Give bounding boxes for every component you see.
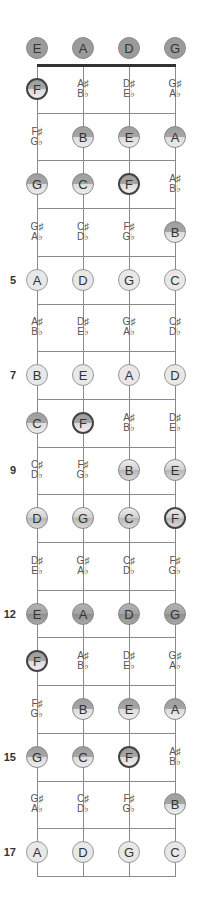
accidental-label: A♯B♭ bbox=[22, 317, 52, 337]
note-marker: G bbox=[72, 507, 94, 529]
note-marker: G bbox=[118, 269, 140, 291]
flat-name: B♭ bbox=[160, 184, 190, 194]
note-marker: D bbox=[72, 841, 94, 863]
accidental-label: G♯A♭ bbox=[22, 794, 52, 814]
note-marker: F bbox=[164, 507, 186, 529]
accidental-label: G♯A♭ bbox=[160, 651, 190, 671]
accidental-label: C♯D♭ bbox=[160, 317, 190, 337]
note-marker: C bbox=[164, 841, 186, 863]
flat-name: A♭ bbox=[22, 804, 52, 814]
flat-name: B♭ bbox=[160, 757, 190, 767]
flat-name: G♭ bbox=[22, 709, 52, 719]
fret-line bbox=[37, 733, 176, 734]
note-marker: C bbox=[72, 746, 94, 768]
note-marker: A bbox=[164, 698, 186, 720]
fret-number: 15 bbox=[2, 751, 16, 763]
accidental-label: C♯D♭ bbox=[114, 556, 144, 576]
open-string-note: G bbox=[164, 37, 186, 59]
note-marker: D bbox=[118, 603, 140, 625]
flat-name: D♭ bbox=[114, 566, 144, 576]
flat-name: E♭ bbox=[114, 89, 144, 99]
flat-name: B♭ bbox=[114, 423, 144, 433]
flat-name: B♭ bbox=[68, 89, 98, 99]
note-marker: A bbox=[26, 841, 48, 863]
accidental-label: F♯G♭ bbox=[68, 460, 98, 480]
fret-number: 9 bbox=[2, 464, 16, 476]
flat-name: D♭ bbox=[22, 470, 52, 480]
accidental-label: F♯G♭ bbox=[160, 556, 190, 576]
accidental-label: C♯D♭ bbox=[68, 222, 98, 242]
fret-line bbox=[37, 542, 176, 543]
note-marker: F bbox=[118, 173, 140, 195]
flat-name: G♭ bbox=[160, 566, 190, 576]
flat-name: A♭ bbox=[22, 232, 52, 242]
fret-number: 7 bbox=[2, 369, 16, 381]
note-marker: F bbox=[72, 412, 94, 434]
fret-line bbox=[37, 828, 176, 829]
open-string-note: A bbox=[72, 37, 94, 59]
fret-line bbox=[37, 876, 176, 877]
flat-name: G♭ bbox=[22, 137, 52, 147]
accidental-label: C♯D♭ bbox=[68, 794, 98, 814]
accidental-label: A♯B♭ bbox=[68, 79, 98, 99]
note-marker: C bbox=[26, 412, 48, 434]
fret-line bbox=[37, 160, 176, 161]
flat-name: D♭ bbox=[160, 327, 190, 337]
note-marker: C bbox=[118, 507, 140, 529]
note-marker: B bbox=[164, 221, 186, 243]
accidental-label: D♯E♭ bbox=[22, 556, 52, 576]
accidental-label: F♯G♭ bbox=[22, 127, 52, 147]
note-marker: F bbox=[26, 650, 48, 672]
flat-name: A♭ bbox=[68, 566, 98, 576]
flat-name: G♭ bbox=[114, 804, 144, 814]
accidental-label: D♯E♭ bbox=[160, 413, 190, 433]
fret-line bbox=[37, 637, 176, 638]
note-marker: D bbox=[164, 364, 186, 386]
accidental-label: C♯D♭ bbox=[22, 460, 52, 480]
fret-line bbox=[37, 256, 176, 257]
fret-line bbox=[37, 494, 176, 495]
note-marker: B bbox=[72, 126, 94, 148]
note-marker: D bbox=[72, 269, 94, 291]
accidental-label: A♯B♭ bbox=[114, 413, 144, 433]
fret-line bbox=[37, 399, 176, 400]
note-marker: G bbox=[26, 173, 48, 195]
note-marker: A bbox=[164, 126, 186, 148]
fret-line bbox=[37, 351, 176, 352]
accidental-label: D♯E♭ bbox=[68, 317, 98, 337]
flat-name: E♭ bbox=[68, 327, 98, 337]
note-marker: G bbox=[26, 746, 48, 768]
note-marker: E bbox=[118, 126, 140, 148]
fret-line bbox=[37, 113, 176, 114]
accidental-label: F♯G♭ bbox=[22, 699, 52, 719]
fret-number: 12 bbox=[2, 608, 16, 620]
accidental-label: G♯A♭ bbox=[160, 79, 190, 99]
open-string-note: D bbox=[118, 37, 140, 59]
fret-number: 17 bbox=[2, 846, 16, 858]
flat-name: A♭ bbox=[160, 661, 190, 671]
note-marker: B bbox=[72, 698, 94, 720]
accidental-label: A♯B♭ bbox=[160, 174, 190, 194]
fret-line bbox=[37, 304, 176, 305]
flat-name: D♭ bbox=[68, 232, 98, 242]
note-marker: F bbox=[118, 746, 140, 768]
flat-name: D♭ bbox=[68, 804, 98, 814]
accidental-label: F♯G♭ bbox=[114, 794, 144, 814]
note-marker: D bbox=[26, 507, 48, 529]
note-marker: C bbox=[164, 269, 186, 291]
note-marker: E bbox=[118, 698, 140, 720]
fret-line bbox=[37, 208, 176, 209]
note-marker: B bbox=[26, 364, 48, 386]
flat-name: A♭ bbox=[160, 89, 190, 99]
note-marker: A bbox=[118, 364, 140, 386]
accidental-label: A♯B♭ bbox=[160, 747, 190, 767]
nut-line bbox=[37, 64, 176, 67]
fret-line bbox=[37, 781, 176, 782]
fret-line bbox=[37, 447, 176, 448]
flat-name: B♭ bbox=[22, 327, 52, 337]
flat-name: E♭ bbox=[22, 566, 52, 576]
fret-line bbox=[37, 685, 176, 686]
accidental-label: A♯B♭ bbox=[68, 651, 98, 671]
note-marker: F bbox=[26, 78, 48, 100]
note-marker: C bbox=[72, 173, 94, 195]
